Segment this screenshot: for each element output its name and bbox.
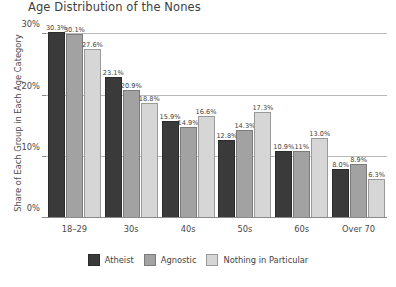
bar-group: 23.1%20.9%18.8% — [103, 22, 160, 218]
bar-group: 12.8%14.3%17.3% — [216, 22, 273, 218]
bar-group: 10.9%11%13.0% — [273, 22, 330, 218]
bar[interactable]: 8.9% — [350, 164, 367, 219]
bar[interactable]: 14.9% — [180, 127, 197, 218]
bar-slot: 27.6% — [84, 22, 101, 218]
bar-slot: 15.9% — [162, 22, 179, 218]
bar-slot: 8.9% — [350, 22, 367, 218]
bar-value-label: 8.9% — [350, 156, 367, 164]
x-tick-label: 50s — [216, 224, 273, 234]
bar-value-label: 23.1% — [103, 69, 124, 77]
bar-groups: 30.3%30.1%27.6%23.1%20.9%18.8%15.9%14.9%… — [46, 22, 387, 218]
x-tick-label: 40s — [160, 224, 217, 234]
legend-swatch — [88, 254, 100, 266]
legend: AtheistAgnosticNothing in Particular — [0, 254, 396, 266]
bar-value-label: 12.8% — [216, 132, 237, 140]
bar-value-label: 6.3% — [368, 171, 385, 179]
plot-area: 0%10%20%30% 30.3%30.1%27.6%23.1%20.9%18.… — [46, 22, 387, 218]
bar-slot: 12.8% — [218, 22, 235, 218]
bar[interactable]: 14.3% — [236, 130, 253, 218]
bar-value-label: 27.6% — [82, 41, 103, 49]
bar-slot: 18.8% — [141, 22, 158, 218]
bar[interactable]: 12.8% — [218, 140, 235, 218]
bar-value-label: 20.9% — [121, 82, 142, 90]
bar-slot: 30.3% — [48, 22, 65, 218]
bar-value-label: 8.0% — [332, 161, 349, 169]
bar-slot: 17.3% — [254, 22, 271, 218]
legend-swatch — [206, 254, 218, 266]
bar-slot: 23.1% — [105, 22, 122, 218]
bar-group: 8.0%8.9%6.3% — [330, 22, 387, 218]
y-tick-label: 10% — [22, 142, 40, 152]
bar-slot: 10.9% — [275, 22, 292, 218]
x-tick-label: 30s — [103, 224, 160, 234]
bar-value-label: 14.9% — [178, 119, 199, 127]
x-axis-line — [46, 217, 387, 218]
y-tick-label: 30% — [22, 19, 40, 29]
legend-label: Atheist — [105, 255, 134, 265]
bar-value-label: 14.3% — [234, 122, 255, 130]
bar-value-label: 16.6% — [196, 108, 217, 116]
bar-slot: 6.3% — [368, 22, 385, 218]
y-tick-label: 20% — [22, 81, 40, 91]
legend-label: Agnostic — [161, 255, 197, 265]
chart-figure: Age Distribution of the Nones Share of E… — [0, 0, 396, 287]
bar-slot: 16.6% — [198, 22, 215, 218]
bar-slot: 20.9% — [123, 22, 140, 218]
bar[interactable]: 27.6% — [84, 49, 101, 218]
page-title: Age Distribution of the Nones — [28, 0, 201, 14]
bar-group: 30.3%30.1%27.6% — [46, 22, 103, 218]
bar[interactable]: 15.9% — [162, 121, 179, 218]
bar[interactable]: 23.1% — [105, 77, 122, 218]
y-tick-label: 0% — [27, 203, 40, 213]
legend-item[interactable]: Nothing in Particular — [206, 254, 308, 266]
bar-slot: 14.9% — [180, 22, 197, 218]
x-tick-label: 60s — [273, 224, 330, 234]
bar-value-label: 13.0% — [309, 130, 330, 138]
bar-value-label: 18.8% — [139, 95, 160, 103]
bar[interactable]: 11% — [293, 151, 310, 218]
bar-value-label: 10.9% — [273, 143, 294, 151]
legend-item[interactable]: Agnostic — [144, 254, 197, 266]
bar-value-label: 17.3% — [252, 104, 273, 112]
bar-slot: 30.1% — [66, 22, 83, 218]
legend-label: Nothing in Particular — [223, 255, 308, 265]
legend-swatch — [144, 254, 156, 266]
x-tick-label: 18–29 — [46, 224, 103, 234]
bar[interactable]: 17.3% — [254, 112, 271, 218]
bar-slot: 8.0% — [332, 22, 349, 218]
bar[interactable]: 10.9% — [275, 151, 292, 218]
bar[interactable]: 16.6% — [198, 116, 215, 218]
bar[interactable]: 8.0% — [332, 169, 349, 218]
bar-slot: 14.3% — [236, 22, 253, 218]
bar[interactable]: 18.8% — [141, 103, 158, 218]
y-axis-title: Share of Each Group in Each Age Category — [13, 23, 23, 223]
bar[interactable]: 6.3% — [368, 179, 385, 218]
bar[interactable]: 30.3% — [48, 32, 65, 218]
bar-slot: 13.0% — [311, 22, 328, 218]
bar-slot: 11% — [293, 22, 310, 218]
bar-value-label: 30.1% — [64, 26, 85, 34]
bar[interactable]: 30.1% — [66, 34, 83, 218]
x-tick-label: Over 70 — [330, 224, 387, 234]
legend-item[interactable]: Atheist — [88, 254, 134, 266]
bar[interactable]: 13.0% — [311, 138, 328, 218]
x-axis-tick-labels: 18–2930s40s50s60sOver 70 — [46, 224, 387, 234]
bar-value-label: 11% — [294, 143, 309, 151]
bar-group: 15.9%14.9%16.6% — [160, 22, 217, 218]
bar[interactable]: 20.9% — [123, 90, 140, 218]
